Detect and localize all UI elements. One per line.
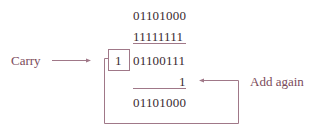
add-again-label: Add again — [250, 75, 304, 88]
carry-arrowhead-icon — [86, 59, 91, 63]
carry-bit: 1 — [115, 54, 122, 67]
add-again-arrowhead-icon — [199, 79, 204, 83]
end-around-carry: 1 — [179, 75, 186, 88]
carry-label: Carry — [11, 54, 41, 67]
partial-sum: 01100111 — [133, 54, 185, 67]
result: 01101000 — [133, 96, 186, 109]
operand-2: 11111111 — [133, 30, 183, 43]
end-around-loop — [105, 59, 239, 124]
operand-1: 01101000 — [133, 9, 186, 22]
